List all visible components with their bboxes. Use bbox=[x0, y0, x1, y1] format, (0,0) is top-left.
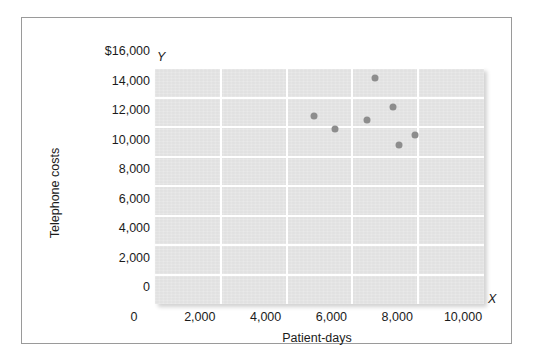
x-axis-tick-label: 10,000 bbox=[444, 310, 482, 324]
gridline-vertical bbox=[351, 68, 353, 304]
gridline-horizontal bbox=[155, 126, 484, 128]
y-axis-tick-label: 2,000 bbox=[86, 251, 150, 265]
gridline-horizontal bbox=[155, 244, 484, 246]
gridline-horizontal bbox=[155, 156, 484, 158]
y-axis-tick-label: 10,000 bbox=[86, 133, 150, 147]
data-point bbox=[332, 126, 339, 133]
data-point bbox=[412, 131, 419, 138]
y-axis-tick-label: $16,000 bbox=[86, 44, 150, 58]
gridline-vertical bbox=[417, 68, 419, 304]
y-axis-tick-label: 14,000 bbox=[86, 74, 150, 88]
data-point bbox=[310, 112, 317, 119]
gridline-horizontal bbox=[155, 67, 484, 69]
y-axis-title: Telephone costs bbox=[48, 118, 62, 268]
x-axis-letter: X bbox=[488, 292, 496, 306]
x-axis-tick-label: 0 bbox=[131, 310, 138, 324]
x-axis-title: Patient-days bbox=[217, 331, 417, 345]
y-axis-tick-label: 6,000 bbox=[86, 192, 150, 206]
y-axis-letter: Y bbox=[157, 50, 165, 64]
y-axis-tick-label: 0 bbox=[86, 280, 150, 294]
gridline-horizontal bbox=[155, 185, 484, 187]
data-point bbox=[390, 104, 397, 111]
data-point bbox=[372, 75, 379, 82]
gridline-vertical bbox=[220, 68, 222, 304]
y-axis-tick-label: 8,000 bbox=[86, 162, 150, 176]
x-axis-tick-label: 4,000 bbox=[250, 310, 281, 324]
gridline-horizontal bbox=[155, 274, 484, 276]
data-point bbox=[364, 117, 371, 124]
figure-frame: 02,0004,0006,0008,00010,00012,00014,000$… bbox=[21, 17, 512, 344]
scatter-chart-figure: 02,0004,0006,0008,00010,00012,00014,000$… bbox=[0, 0, 536, 355]
y-axis-tick-label: 12,000 bbox=[86, 103, 150, 117]
x-axis-tick-label: 6,000 bbox=[316, 310, 347, 324]
gridline-vertical bbox=[286, 68, 288, 304]
y-axis-tick-label: 4,000 bbox=[86, 221, 150, 235]
x-axis-tick-label: 8,000 bbox=[382, 310, 413, 324]
x-axis-tick-label: 2,000 bbox=[184, 310, 215, 324]
data-point bbox=[396, 141, 403, 148]
gridline-horizontal bbox=[155, 97, 484, 99]
y-axis-tick-labels: 02,0004,0006,0008,00010,00012,00014,000$… bbox=[82, 18, 150, 355]
gridline-horizontal bbox=[155, 215, 484, 217]
plot-area bbox=[155, 68, 484, 304]
